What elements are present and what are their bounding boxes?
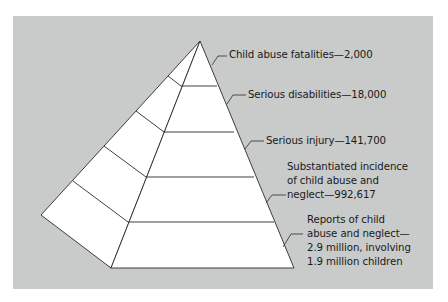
label-line: Substantiated incidence	[287, 160, 408, 174]
label-line: abuse and neglect—	[307, 227, 411, 241]
label-line: Child abuse fatalities—2,000	[229, 48, 373, 62]
leader-line-injury	[245, 141, 264, 149]
label-line: 2.9 million, involving	[307, 241, 411, 255]
label-line: Reports of child	[307, 213, 411, 227]
label-substantiated: Substantiated incidence of child abuse a…	[287, 160, 408, 202]
label-line: Serious injury—141,700	[266, 134, 386, 148]
leader-line-substantiated	[266, 195, 286, 203]
label-line: neglect—992,617	[287, 188, 408, 202]
leader-line-fatalities	[212, 56, 227, 65]
leader-line-reports	[283, 234, 303, 247]
label-line: Serious disabilities—18,000	[248, 88, 386, 102]
label-line: of child abuse and	[287, 174, 408, 188]
label-reports: Reports of child abuse and neglect— 2.9 …	[307, 213, 411, 269]
label-disabilities: Serious disabilities—18,000	[248, 88, 386, 102]
label-injury: Serious injury—141,700	[266, 134, 386, 148]
leader-line-disabilities	[227, 95, 246, 104]
label-fatalities: Child abuse fatalities—2,000	[229, 48, 373, 62]
label-line: 1.9 million children	[307, 255, 411, 269]
